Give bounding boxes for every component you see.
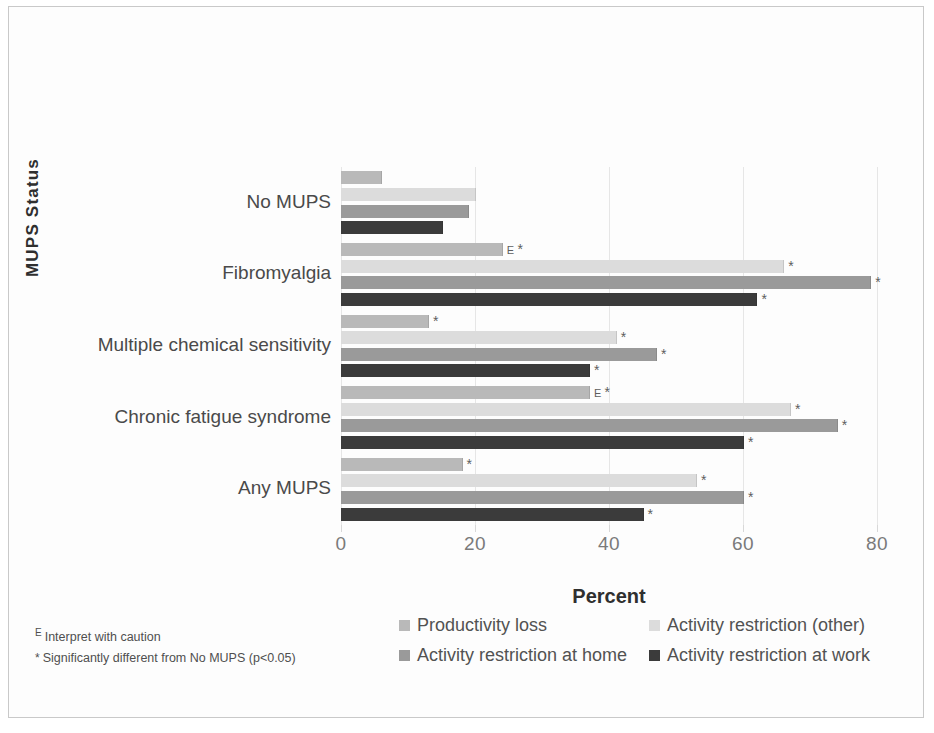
legend-item[interactable]: Activity restriction at work — [649, 645, 899, 666]
bar-group: E **** — [341, 386, 877, 449]
bar[interactable] — [341, 508, 644, 521]
y-axis-category-labels: No MUPSFibromyalgiaMultiple chemical sen… — [9, 167, 331, 525]
footnotes: EInterpret with caution*Significantly di… — [35, 627, 345, 672]
legend-label: Activity restriction (other) — [667, 615, 865, 636]
legend-row: Activity restriction at homeActivity res… — [399, 645, 899, 666]
figure-frame: MUPS Status No MUPSFibromyalgiaMultiple … — [8, 6, 924, 718]
bar[interactable] — [341, 315, 429, 328]
bar-group: E **** — [341, 243, 877, 306]
legend: Productivity lossActivity restriction (o… — [399, 615, 899, 675]
bar[interactable] — [341, 331, 617, 344]
legend-label: Activity restriction at home — [417, 645, 627, 666]
bar[interactable] — [341, 386, 590, 399]
bar[interactable] — [341, 205, 469, 218]
bar[interactable] — [341, 171, 382, 184]
bar[interactable] — [341, 188, 476, 201]
bar-group: **** — [341, 315, 877, 378]
x-axis-title: Percent — [341, 585, 877, 608]
gridline — [877, 167, 878, 525]
y-axis-category-label: Chronic fatigue syndrome — [115, 406, 332, 428]
significance-marker: * — [621, 330, 626, 344]
bar[interactable] — [341, 364, 590, 377]
significance-marker: * — [467, 457, 472, 471]
bar[interactable] — [341, 458, 463, 471]
significance-marker: * — [661, 347, 666, 361]
bar[interactable] — [341, 474, 697, 487]
significance-marker: * — [748, 435, 753, 449]
x-axis-tick — [609, 525, 610, 532]
legend-item[interactable]: Activity restriction at home — [399, 645, 649, 666]
bar[interactable] — [341, 348, 657, 361]
significance-marker: * — [788, 259, 793, 273]
significance-marker: * — [648, 507, 653, 521]
significance-marker: * — [842, 418, 847, 432]
bar[interactable] — [341, 243, 503, 256]
bar[interactable] — [341, 221, 443, 234]
x-axis-tick-label: 40 — [598, 533, 620, 555]
legend-label: Productivity loss — [417, 615, 547, 636]
significance-marker: * — [875, 275, 880, 289]
x-axis-tick-label: 60 — [732, 533, 754, 555]
bar[interactable] — [341, 260, 784, 273]
legend-item[interactable]: Productivity loss — [399, 615, 649, 636]
footnote-text: Significantly different from No MUPS (p<… — [43, 651, 296, 665]
y-axis-category-label: Fibromyalgia — [222, 262, 331, 284]
bar[interactable] — [341, 293, 757, 306]
x-axis-tick-label: 0 — [335, 533, 346, 555]
legend-item[interactable]: Activity restriction (other) — [649, 615, 899, 636]
x-axis-tick — [877, 525, 878, 532]
footnote-text: Interpret with caution — [45, 630, 161, 644]
bar[interactable] — [341, 403, 791, 416]
x-axis-tick-label: 20 — [464, 533, 486, 555]
legend-swatch-icon — [399, 620, 410, 631]
plot-area: 020406080E ********E ******** — [341, 167, 877, 525]
x-axis-tick-label: 80 — [866, 533, 888, 555]
y-axis-category-label: No MUPS — [247, 191, 331, 213]
bar-group: **** — [341, 458, 877, 521]
bar[interactable] — [341, 436, 744, 449]
significance-marker: * — [701, 473, 706, 487]
bar[interactable] — [341, 491, 744, 504]
x-axis-tick — [743, 525, 744, 532]
bar[interactable] — [341, 276, 871, 289]
bar-group — [341, 171, 877, 234]
legend-label: Activity restriction at work — [667, 645, 870, 666]
legend-swatch-icon — [649, 620, 660, 631]
significance-marker: * — [748, 490, 753, 504]
footnote-marker: E — [35, 627, 42, 638]
legend-swatch-icon — [399, 650, 410, 661]
footnote: *Significantly different from No MUPS (p… — [35, 651, 345, 665]
caution-marker: E * — [507, 242, 523, 256]
legend-row: Productivity lossActivity restriction (o… — [399, 615, 899, 636]
significance-marker: * — [594, 363, 599, 377]
y-axis-category-label: Any MUPS — [238, 477, 331, 499]
footnote-marker: * — [35, 651, 40, 665]
footnote: EInterpret with caution — [35, 627, 345, 644]
x-axis-tick — [341, 525, 342, 532]
significance-marker: * — [795, 402, 800, 416]
significance-marker: * — [761, 292, 766, 306]
y-axis-category-label: Multiple chemical sensitivity — [98, 334, 331, 356]
x-axis-tick — [475, 525, 476, 532]
bar[interactable] — [341, 419, 838, 432]
legend-swatch-icon — [649, 650, 660, 661]
significance-marker: * — [433, 314, 438, 328]
caution-marker: E * — [594, 385, 610, 399]
